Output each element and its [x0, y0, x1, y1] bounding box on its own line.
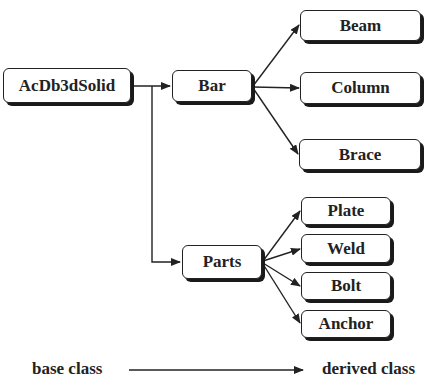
node-bolt: Bolt	[301, 272, 391, 300]
edge-parts-anchor	[263, 264, 300, 323]
node-acdb3dsolid: AcDb3dSolid	[3, 68, 131, 103]
node-bar: Bar	[172, 70, 252, 102]
legend-base-class: base class	[32, 359, 102, 379]
node-column: Column	[300, 72, 421, 104]
node-plate: Plate	[301, 197, 391, 225]
node-anchor: Anchor	[301, 310, 391, 338]
node-beam: Beam	[300, 10, 421, 41]
legend-derived-class: derived class	[322, 359, 415, 379]
node-parts: Parts	[182, 245, 262, 279]
edge-bar-beam	[253, 25, 299, 86]
node-weld: Weld	[301, 234, 391, 263]
edge-parts-weld	[263, 249, 300, 261]
edge-parts-bolt	[263, 263, 300, 286]
edge-bar-column	[253, 87, 299, 88]
edge-bar-brace	[253, 88, 298, 154]
edge-parts-plate	[263, 211, 300, 261]
edge-root-parts	[152, 86, 180, 262]
node-brace: Brace	[299, 139, 421, 170]
